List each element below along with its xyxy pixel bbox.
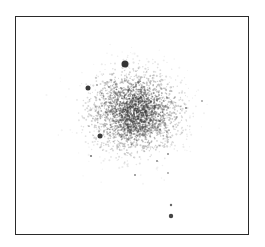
hub-node bbox=[170, 204, 172, 206]
hub-node bbox=[185, 107, 187, 109]
hub-node bbox=[201, 100, 203, 102]
hub-node bbox=[90, 155, 92, 157]
network-graph bbox=[0, 0, 265, 247]
hub-node bbox=[98, 134, 103, 139]
hub-node bbox=[96, 84, 98, 86]
cluster-points bbox=[46, 44, 220, 185]
hub-node bbox=[122, 61, 129, 68]
hub-node bbox=[134, 174, 136, 176]
hub-node bbox=[167, 172, 169, 174]
hub-node bbox=[156, 160, 158, 162]
hub-node bbox=[167, 153, 169, 155]
hub-node bbox=[169, 214, 173, 218]
hub-node bbox=[86, 86, 91, 91]
